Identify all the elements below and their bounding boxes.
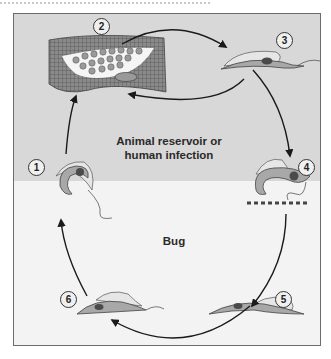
bug-region-label: Bug bbox=[154, 234, 194, 248]
arrow-3-to-4 bbox=[253, 70, 290, 156]
infected-muscle-cell bbox=[49, 35, 166, 92]
life-cycle-diagram: 2 3 1 4 5 6 Animal reservoir or human in… bbox=[13, 13, 321, 346]
stage-marker-1: 1 bbox=[28, 159, 45, 176]
arrow-6-to-1 bbox=[61, 220, 87, 296]
top-dotted-border bbox=[0, 2, 210, 4]
epimastigote-stage-6 bbox=[77, 292, 164, 314]
stage-marker-2: 2 bbox=[93, 18, 110, 35]
stage-marker-5: 5 bbox=[275, 291, 292, 308]
stage-marker-4: 4 bbox=[298, 159, 315, 176]
trypomastigote-stage-1 bbox=[56, 162, 112, 219]
host-region-label: Animal reservoir or human infection bbox=[99, 134, 239, 162]
stage-marker-6: 6 bbox=[60, 291, 77, 308]
stage-marker-3: 3 bbox=[276, 32, 293, 49]
trypomastigote-stage-3 bbox=[221, 51, 320, 69]
arrow-1-to-2 bbox=[66, 96, 76, 154]
